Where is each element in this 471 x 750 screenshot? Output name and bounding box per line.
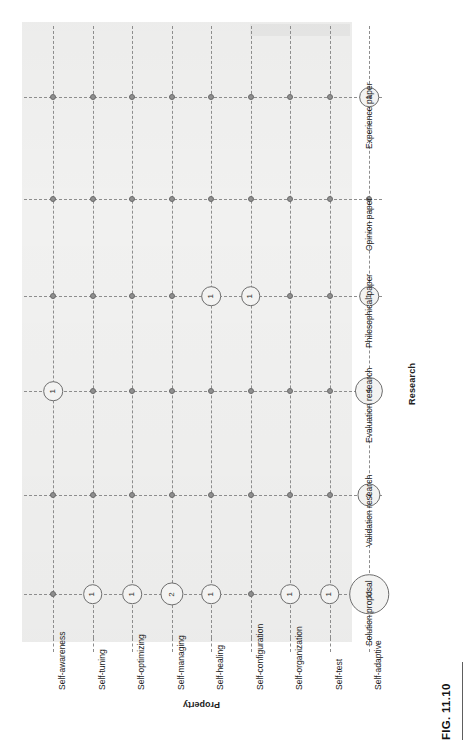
category-axis-label: Self-configuration bbox=[255, 624, 265, 690]
grid-point-marker bbox=[248, 492, 254, 498]
grid-point-marker bbox=[169, 388, 175, 394]
grid-point-marker bbox=[208, 94, 214, 100]
bubble-value-label: 1 bbox=[128, 592, 136, 596]
value-axis-title: Research bbox=[407, 363, 417, 405]
grid-point-marker bbox=[287, 196, 293, 202]
scanned-figure-page: 111114211211111 Self-awarenessSelf-tunin… bbox=[0, 0, 471, 750]
grid-point-marker bbox=[129, 196, 135, 202]
bubble-value-label: 1 bbox=[207, 592, 215, 596]
category-axis-label: Self-awareness bbox=[57, 631, 67, 690]
axis-tick bbox=[172, 638, 173, 652]
gridline-vertical bbox=[53, 26, 54, 638]
grid-point-marker bbox=[287, 293, 293, 299]
category-axis-label: Self-organization bbox=[294, 626, 304, 690]
grid-point-marker bbox=[208, 492, 214, 498]
grid-point-marker bbox=[129, 388, 135, 394]
grid-point-marker bbox=[287, 94, 293, 100]
bubble-value-label: 1 bbox=[246, 294, 254, 298]
bubble-value-label: 1 bbox=[207, 294, 215, 298]
grid-point-marker bbox=[327, 388, 333, 394]
grid-point-marker bbox=[327, 196, 333, 202]
grid-point-marker bbox=[287, 388, 293, 394]
bubble-marker: 1 bbox=[83, 584, 103, 604]
gridline-vertical bbox=[290, 26, 291, 638]
category-axis-label: Self-adaptive bbox=[373, 640, 383, 690]
plot-panel bbox=[22, 22, 352, 642]
research-axis-label: Evaluation research bbox=[364, 368, 374, 443]
grid-point-marker bbox=[327, 94, 333, 100]
grid-point-marker bbox=[50, 293, 56, 299]
grid-point-marker bbox=[90, 388, 96, 394]
grid-point-marker bbox=[248, 591, 254, 597]
grid-point-marker bbox=[169, 492, 175, 498]
bubble-marker: 1 bbox=[320, 584, 340, 604]
bubble-marker: 1 bbox=[201, 584, 221, 604]
bubble-value-label: 1 bbox=[88, 592, 96, 596]
grid-point-marker bbox=[90, 492, 96, 498]
bubble-marker: 1 bbox=[43, 381, 63, 401]
category-axis-label: Self-healing bbox=[215, 645, 225, 690]
bubble-value-label: 1 bbox=[49, 389, 57, 393]
grid-point-marker bbox=[248, 388, 254, 394]
grid-point-marker bbox=[248, 196, 254, 202]
grid-point-marker bbox=[50, 492, 56, 498]
grid-point-marker bbox=[50, 196, 56, 202]
research-axis-label: Solution proposal bbox=[364, 580, 374, 646]
grid-point-marker bbox=[129, 94, 135, 100]
axis-tick bbox=[53, 638, 54, 652]
category-axis-title: Property bbox=[183, 700, 220, 710]
grid-point-marker bbox=[248, 94, 254, 100]
axis-tick bbox=[330, 638, 331, 652]
grid-point-marker bbox=[129, 492, 135, 498]
gridline-vertical bbox=[330, 26, 331, 638]
category-axis-label: Self-test bbox=[334, 659, 344, 690]
grid-point-marker bbox=[90, 293, 96, 299]
gridline-vertical bbox=[211, 26, 212, 638]
grid-point-marker bbox=[90, 196, 96, 202]
grid-point-marker bbox=[169, 94, 175, 100]
research-axis-label: Philosophical paper bbox=[364, 274, 374, 348]
bubble-marker: 1 bbox=[241, 286, 261, 306]
gridline-vertical bbox=[132, 26, 133, 638]
grid-point-marker bbox=[50, 591, 56, 597]
gridline-vertical bbox=[251, 26, 252, 638]
grid-point-marker bbox=[90, 94, 96, 100]
research-axis-label: Opinion paper bbox=[364, 198, 374, 251]
research-axis-label: Validation research bbox=[364, 475, 374, 547]
gridline-vertical bbox=[172, 26, 173, 638]
grid-point-marker bbox=[287, 492, 293, 498]
grid-point-marker bbox=[208, 196, 214, 202]
axis-tick bbox=[211, 638, 212, 652]
bubble-marker: 1 bbox=[122, 584, 142, 604]
axis-tick bbox=[93, 638, 94, 652]
grid-point-marker bbox=[50, 94, 56, 100]
axis-tick bbox=[290, 638, 291, 652]
grid-point-marker bbox=[208, 388, 214, 394]
gridline-vertical bbox=[93, 26, 94, 638]
bubble-value-label: 2 bbox=[167, 592, 175, 596]
axis-tick bbox=[251, 638, 252, 652]
page-edge-rule bbox=[462, 662, 463, 740]
grid-point-marker bbox=[327, 492, 333, 498]
bubble-marker: 1 bbox=[201, 286, 221, 306]
bubble-value-label: 1 bbox=[325, 592, 333, 596]
bubble-value-label: 1 bbox=[286, 592, 294, 596]
grid-point-marker bbox=[169, 293, 175, 299]
category-axis-label: Self-managing bbox=[176, 635, 186, 690]
research-axis-label: Experience paper bbox=[364, 82, 374, 149]
figure-caption: FIG. 11.10 bbox=[440, 683, 452, 740]
grid-point-marker bbox=[129, 293, 135, 299]
bubble-marker: 1 bbox=[280, 584, 300, 604]
axis-tick bbox=[132, 638, 133, 652]
grid-point-marker bbox=[169, 196, 175, 202]
category-axis-label: Self-tuning bbox=[97, 649, 107, 690]
grid-point-marker bbox=[327, 293, 333, 299]
category-axis-label: Self-optimizing bbox=[136, 634, 146, 690]
